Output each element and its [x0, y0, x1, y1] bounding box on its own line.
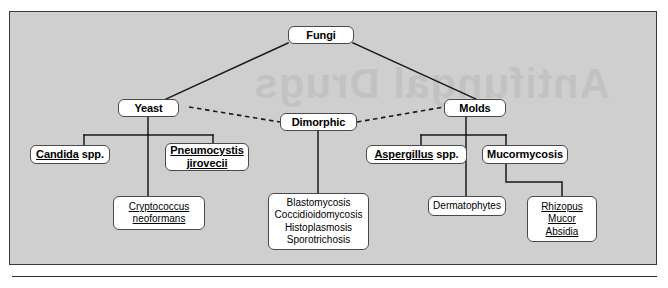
genus-rhizopus: Rhizopus: [541, 201, 583, 213]
node-molds-label: Molds: [459, 102, 490, 115]
disease-histoplasmosis: Histoplasmosis: [285, 222, 352, 234]
node-cryptococcus[interactable]: Cryptococcus neoformans: [113, 196, 205, 230]
node-fungi-label: Fungi: [306, 29, 335, 42]
node-candida-label: Candidaspp.: [36, 148, 104, 161]
genus-mucor: Mucor: [548, 213, 576, 225]
node-candida-genus: Candida: [36, 148, 79, 160]
node-dermatophytes[interactable]: Dermatophytes: [428, 196, 506, 216]
node-candida-spp: spp.: [82, 148, 104, 160]
node-pneumocystis[interactable]: Pneumocystis jirovecii: [165, 143, 249, 171]
node-yeast[interactable]: Yeast: [118, 99, 179, 117]
node-mucormycosis-label: Mucormycosis: [487, 148, 563, 161]
node-molds[interactable]: Molds: [444, 99, 506, 117]
node-pneumocystis-genus: Pneumocystis: [170, 144, 243, 157]
genus-absidia: Absidia: [546, 226, 579, 238]
node-cryptococcus-species: neoformans: [133, 213, 186, 225]
disease-blastomycosis: Blastomycosis: [287, 197, 351, 209]
node-cryptococcus-genus: Cryptococcus: [129, 201, 190, 213]
disease-sporotrichosis: Sporotrichosis: [287, 234, 350, 246]
node-aspergillus-genus: Aspergillus: [374, 148, 433, 160]
node-aspergillus[interactable]: Aspergillusspp.: [366, 145, 467, 164]
node-yeast-label: Yeast: [134, 102, 162, 115]
disease-coccidioidomycosis: Coccidioidomycosis: [275, 209, 363, 221]
node-aspergillus-spp: spp.: [436, 148, 458, 160]
node-mucor-genera[interactable]: Rhizopus Mucor Absidia: [527, 196, 597, 242]
node-dermatophytes-label: Dermatophytes: [433, 200, 501, 212]
figure-page: Antifungal Drugs: [0, 0, 668, 288]
node-dimorphic-label: Dimorphic: [292, 116, 346, 129]
node-pneumocystis-species: jirovecii: [187, 157, 228, 170]
node-dimorphic-diseases[interactable]: Blastomycosis Coccidioidomycosis Histopl…: [268, 193, 369, 250]
node-candida[interactable]: Candidaspp.: [30, 145, 110, 164]
node-aspergillus-label: Aspergillusspp.: [374, 148, 458, 161]
page-horizontal-rule: [12, 276, 657, 277]
node-mucormycosis[interactable]: Mucormycosis: [482, 145, 568, 164]
node-dimorphic[interactable]: Dimorphic: [280, 113, 357, 131]
node-fungi[interactable]: Fungi: [288, 26, 354, 44]
